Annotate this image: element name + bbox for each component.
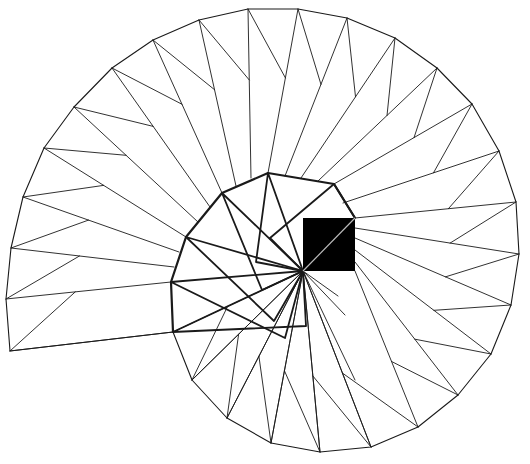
fin-spoke bbox=[355, 202, 516, 218]
fin-fold bbox=[199, 20, 249, 80]
fin-spoke bbox=[285, 18, 347, 176]
fin-fold bbox=[415, 339, 491, 354]
outer-fin-lines bbox=[6, 9, 519, 452]
fin-spoke bbox=[355, 228, 519, 254]
fin-spoke bbox=[199, 20, 236, 186]
fin-spoke bbox=[153, 40, 222, 193]
fin-spoke bbox=[355, 271, 418, 427]
fin-fold bbox=[434, 305, 511, 310]
spiral-end-edge bbox=[10, 332, 173, 351]
fin-fold bbox=[44, 148, 126, 155]
fin-spoke bbox=[355, 262, 458, 395]
fin-fold bbox=[284, 371, 320, 452]
fin-spoke bbox=[248, 9, 251, 178]
fin-spoke bbox=[44, 148, 186, 237]
fin-spoke bbox=[11, 248, 174, 267]
spiral-svg bbox=[0, 0, 530, 464]
fin-fold bbox=[298, 9, 321, 84]
fin-spoke bbox=[318, 68, 437, 181]
fin-fold bbox=[450, 202, 516, 243]
pivot-ray bbox=[303, 271, 355, 380]
fin-fold bbox=[248, 9, 285, 78]
fin-spoke bbox=[268, 9, 298, 173]
fin-spoke bbox=[355, 238, 511, 305]
fin-fold bbox=[387, 38, 395, 115]
fin-fold bbox=[227, 334, 239, 418]
fin-fold bbox=[445, 254, 519, 277]
fin-spoke bbox=[334, 104, 472, 184]
outer-boundary bbox=[6, 9, 519, 452]
fin-fold bbox=[10, 292, 75, 351]
fin-fold bbox=[433, 104, 472, 173]
fin-fold bbox=[192, 306, 228, 380]
fin-fold bbox=[112, 68, 182, 104]
fin-fold bbox=[392, 361, 458, 395]
spiral-diagram: Square-root spiral construction bbox=[0, 0, 530, 464]
pivot-ray bbox=[303, 271, 320, 452]
pivot-ray bbox=[303, 271, 345, 315]
fin-fold bbox=[259, 356, 271, 443]
fin-spoke bbox=[74, 107, 198, 222]
pivot-ray bbox=[192, 271, 303, 380]
pivot-ray bbox=[227, 271, 303, 418]
inner-rotated-square bbox=[256, 173, 303, 271]
fin-fold bbox=[11, 220, 89, 248]
central-black-square bbox=[303, 218, 355, 271]
fin-fold bbox=[23, 185, 104, 197]
fin-spoke bbox=[112, 68, 210, 207]
pivot-ray bbox=[303, 271, 371, 447]
fin-fold bbox=[347, 18, 356, 97]
fin-spoke bbox=[23, 197, 179, 252]
fin-spoke bbox=[355, 250, 491, 354]
fin-fold bbox=[313, 376, 371, 447]
